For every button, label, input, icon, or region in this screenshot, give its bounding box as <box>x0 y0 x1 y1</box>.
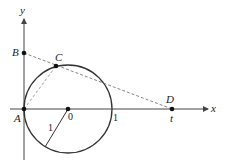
label-t: t <box>170 112 174 124</box>
point-d <box>170 107 175 112</box>
label-c: C <box>55 51 63 63</box>
label-b: B <box>12 46 19 58</box>
x-axis-label: x <box>210 102 216 114</box>
point-c <box>54 64 59 69</box>
diagram: y x B C A D t 0 1 1 <box>0 0 226 167</box>
y-axis-label: y <box>19 4 25 16</box>
secant-line-bd <box>24 53 172 109</box>
label-a: A <box>13 112 21 124</box>
chord-ac <box>24 66 56 109</box>
label-d: D <box>165 93 174 105</box>
point-a <box>22 107 27 112</box>
label-radius-1: 1 <box>48 122 53 133</box>
label-origin-0: 0 <box>68 111 73 122</box>
point-b <box>22 51 27 56</box>
geometry-figure: y x B C A D t 0 1 1 <box>0 0 226 167</box>
label-circle-right-1: 1 <box>113 112 118 123</box>
